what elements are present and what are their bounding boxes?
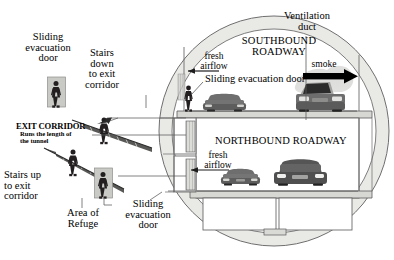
label-fresh-airflow-top: fresh airflow <box>192 52 236 71</box>
label-southbound-roadway: SOUTHBOUND ROADWAY <box>224 36 334 57</box>
sliding-door-illustration-top <box>48 77 66 108</box>
label-sliding-evacuation-door-bottom: Sliding evacuation door <box>116 199 180 231</box>
label-sliding-evacuation-door-inner: Sliding evacuation door <box>205 74 337 85</box>
tunnel-evacuation-diagram: Sliding evacuation door Stairs down to e… <box>0 0 394 260</box>
sliding-door-illustration-bottom <box>95 168 113 199</box>
sliding-door-panel-upper <box>186 121 195 152</box>
label-northbound-roadway: NORTHBOUND ROADWAY <box>213 136 349 147</box>
label-exit-corridor: EXIT CORRIDOR Runs the length of the tun… <box>16 122 112 145</box>
wall-hatch-upper-left <box>178 74 185 100</box>
label-stairs-down-to-exit-corridor: Stairs down to exit corridor <box>74 48 130 91</box>
label-stairs-up-to-exit-corridor: Stairs up to exit corridor <box>4 170 66 202</box>
label-fresh-airflow-bottom: fresh airflow <box>196 151 240 170</box>
vehicle-suv-northbound <box>274 159 327 185</box>
label-sliding-evacuation-door-top: Sliding evacuation door <box>18 32 78 64</box>
label-smoke: smoke <box>304 60 344 70</box>
label-ventilation-duct: Ventilation duct <box>276 11 338 32</box>
sliding-door-panel-lower <box>186 159 195 190</box>
label-area-of-refuge: Area of Refuge <box>56 208 110 229</box>
